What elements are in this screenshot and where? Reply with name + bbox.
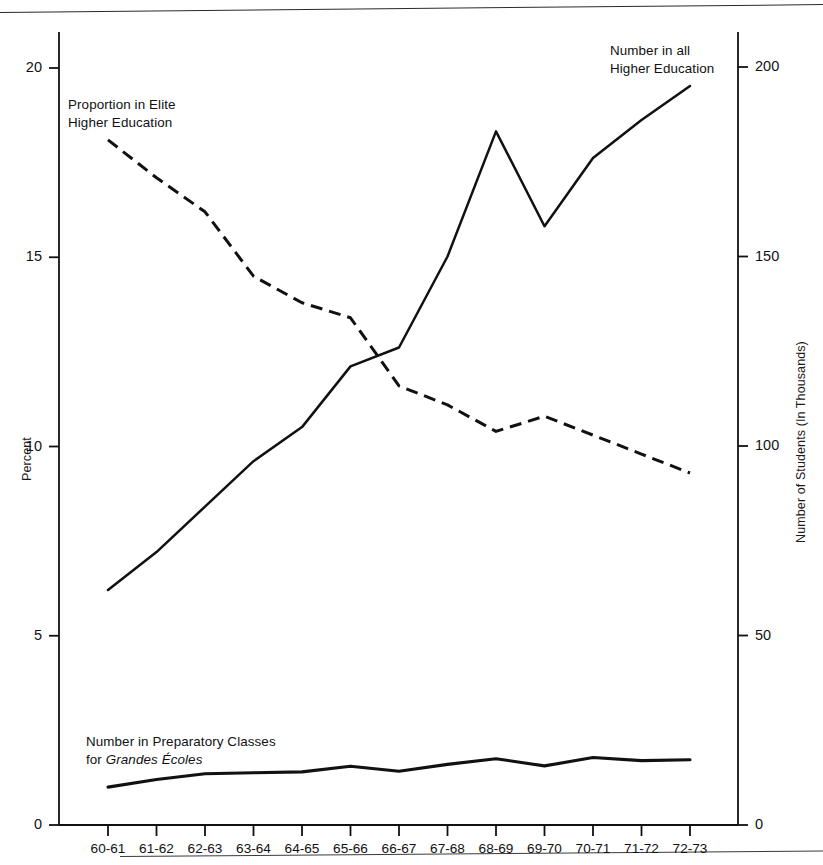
annotation-all-line1: Number in all xyxy=(610,42,714,60)
series-elite-proportion-line xyxy=(108,140,690,473)
chart-figure: Percent Number of Students (In Thousands… xyxy=(0,0,823,865)
annotation-elite-line2: Higher Education xyxy=(68,114,176,132)
right-axis-ticks xyxy=(738,67,748,825)
annotation-preparatory-classes: Number in Preparatory Classes for Grande… xyxy=(86,733,276,768)
annotation-prep-italic: Grandes Écoles xyxy=(106,752,203,767)
annotation-elite-higher-education: Proportion in Elite Higher Education xyxy=(68,96,176,131)
left-tick-label: 15 xyxy=(8,248,42,264)
series-all-higher-education-line xyxy=(108,86,690,590)
annotation-all-line2: Higher Education xyxy=(610,60,714,78)
right-tick-label: 100 xyxy=(755,437,797,453)
data-series-layer xyxy=(108,86,690,787)
annotation-prep-line1: Number in Preparatory Classes xyxy=(86,733,276,751)
x-axis-ticks xyxy=(108,825,690,836)
annotation-elite-line1: Proportion in Elite xyxy=(68,96,176,114)
x-tick-label: 72-73 xyxy=(660,841,720,856)
right-tick-label: 50 xyxy=(755,627,797,643)
right-tick-label: 0 xyxy=(755,816,797,832)
right-tick-label: 200 xyxy=(755,58,797,74)
right-tick-label: 150 xyxy=(755,248,797,264)
annotation-prep-prefix: for xyxy=(86,752,106,767)
left-tick-label: 5 xyxy=(8,627,42,643)
annotation-all-higher-education: Number in all Higher Education xyxy=(610,42,714,77)
annotation-prep-line2: for Grandes Écoles xyxy=(86,751,276,769)
axis-lines xyxy=(59,32,738,825)
left-tick-label: 0 xyxy=(8,816,42,832)
left-tick-label: 10 xyxy=(8,438,42,454)
left-axis-ticks xyxy=(49,68,59,825)
left-axis-title: Percent xyxy=(20,419,34,499)
left-tick-label: 20 xyxy=(8,59,42,75)
